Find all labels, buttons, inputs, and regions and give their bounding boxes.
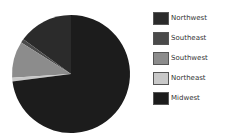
legend-label: Southwest (171, 54, 208, 62)
legend-swatch (153, 52, 169, 65)
legend-item: Northwest (153, 8, 208, 28)
legend-label: Northwest (171, 14, 207, 22)
legend-swatch (153, 92, 169, 105)
legend-swatch (153, 72, 169, 85)
legend: Northwest Southeast Southwest Northeast … (153, 8, 208, 108)
legend-item: Southeast (153, 28, 208, 48)
legend-item: Northeast (153, 68, 208, 88)
legend-label: Midwest (171, 94, 200, 102)
legend-swatch (153, 12, 169, 25)
legend-label: Northeast (171, 74, 206, 82)
legend-label: Southeast (171, 34, 206, 42)
legend-item: Southwest (153, 48, 208, 68)
legend-item: Midwest (153, 88, 208, 108)
legend-swatch (153, 32, 169, 45)
